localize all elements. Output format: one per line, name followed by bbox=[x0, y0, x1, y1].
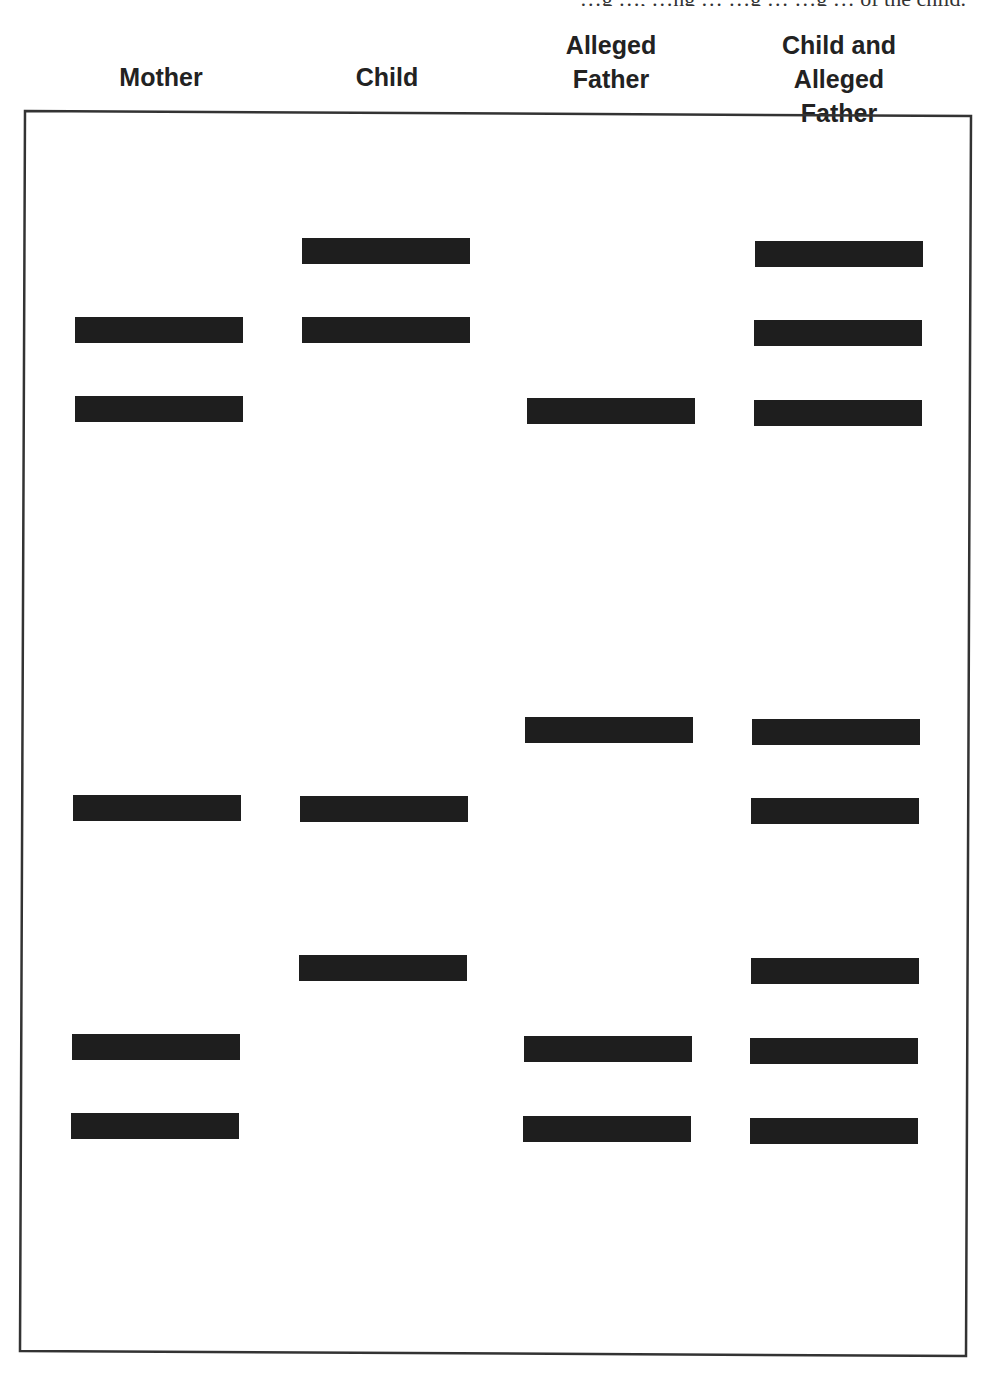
dna-band-mother bbox=[73, 795, 241, 821]
dna-band-alleged-father bbox=[527, 398, 695, 424]
dna-band-child bbox=[302, 317, 470, 343]
dna-band-mother bbox=[75, 317, 243, 343]
dna-band-alleged-father bbox=[523, 1116, 691, 1142]
dna-band-alleged-father bbox=[525, 717, 693, 743]
dna-band-child bbox=[300, 796, 468, 822]
dna-band-mother bbox=[75, 396, 243, 422]
dna-band-mother bbox=[72, 1034, 240, 1060]
dna-band-child-and-alleged-father bbox=[750, 1038, 918, 1064]
dna-band-alleged-father bbox=[524, 1036, 692, 1062]
dna-band-child-and-alleged-father bbox=[754, 400, 922, 426]
dna-band-child-and-alleged-father bbox=[754, 320, 922, 346]
dna-band-child bbox=[302, 238, 470, 264]
dna-band-mother bbox=[71, 1113, 239, 1139]
dna-band-child bbox=[299, 955, 467, 981]
dna-band-child-and-alleged-father bbox=[751, 798, 919, 824]
dna-band-child-and-alleged-father bbox=[750, 1118, 918, 1144]
dna-band-child-and-alleged-father bbox=[755, 241, 923, 267]
dna-band-child-and-alleged-father bbox=[751, 958, 919, 984]
gel-box bbox=[0, 0, 996, 1384]
dna-band-child-and-alleged-father bbox=[752, 719, 920, 745]
